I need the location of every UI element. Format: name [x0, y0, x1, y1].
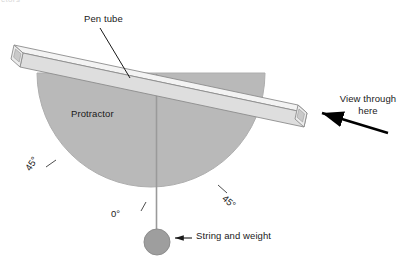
tick-45-right [218, 185, 227, 193]
protractor-inclinometer-diagram [0, 0, 408, 263]
view-through-here-label: View through here [332, 93, 404, 117]
tick-0 [141, 202, 146, 211]
pen-tube-label: Pen tube [84, 13, 123, 25]
protractor-label: Protractor [71, 108, 114, 120]
angle-label-0: 0° [111, 208, 120, 219]
diagram-canvas: ctors [0, 0, 408, 263]
view-through-line2: here [358, 105, 377, 116]
tick-45-left [46, 160, 56, 167]
view-through-line1: View through [340, 93, 396, 104]
string-and-weight-label: String and weight [196, 230, 271, 242]
plumb-weight [144, 229, 170, 255]
